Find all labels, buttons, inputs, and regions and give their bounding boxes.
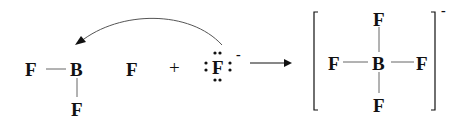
product-f-bottom: F <box>373 96 385 115</box>
product-charge: - <box>441 4 446 18</box>
product-b: B <box>372 54 385 73</box>
atom-f-detached: F <box>126 60 138 79</box>
right-bracket <box>431 12 435 110</box>
left-bracket <box>314 12 318 110</box>
reaction-arrow-head <box>284 59 292 67</box>
product-f-top: F <box>373 10 385 29</box>
atom-b: B <box>70 60 83 79</box>
curved-electron-arrow <box>80 18 222 45</box>
plus-sign: + <box>169 58 180 77</box>
curved-arrow-head <box>75 36 86 45</box>
product-f-left: F <box>328 54 340 73</box>
fluoride-charge: - <box>236 48 241 62</box>
atom-f-left: F <box>25 60 37 79</box>
fluoride-atom: F <box>212 58 224 77</box>
atom-f-bottom: F <box>71 100 83 119</box>
product-f-right: F <box>416 54 428 73</box>
